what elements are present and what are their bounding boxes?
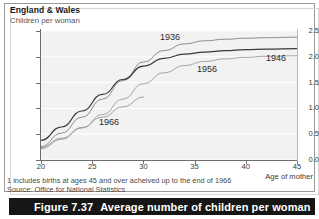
- x-tick-label: 45: [285, 162, 309, 171]
- figure-caption-bar: Figure 7.37Average number of children pe…: [4, 198, 315, 215]
- x-tick-label: 30: [131, 162, 155, 171]
- footnote-source: Source: Office for National Statistics: [7, 185, 125, 194]
- series-label-1956: 1956: [197, 64, 217, 74]
- y-tick-label: 1.5: [289, 78, 319, 87]
- series-label-1946: 1946: [266, 53, 286, 63]
- series-lines: [41, 37, 297, 148]
- y-axis-title: Children per woman: [10, 16, 80, 25]
- y-axis-line: [40, 29, 41, 161]
- x-axis-title: Age of mother: [265, 172, 313, 181]
- y-tick-mark: [36, 31, 40, 32]
- chart-region-title: England & Wales: [10, 5, 80, 15]
- x-tick-label: 40: [234, 162, 258, 171]
- caption-figure-number: Figure 7.37: [34, 201, 93, 213]
- caption-text-wrap: Figure 7.37Average number of children pe…: [9, 201, 311, 213]
- y-tick-mark: [36, 108, 40, 109]
- x-tick-label: 35: [183, 162, 207, 171]
- series-line-1946: [41, 49, 297, 141]
- series-label-1966: 1966: [99, 117, 119, 127]
- caption-title: Average number of children per woman: [100, 201, 310, 213]
- y-tick-mark: [36, 134, 40, 135]
- footnote-births: 1 includes births at ages 45 and over ac…: [7, 176, 231, 185]
- series-line-1956: [41, 56, 297, 149]
- y-tick-label: 1.0: [289, 103, 319, 112]
- y-tick-label: 2.0: [289, 52, 319, 61]
- figure-container: England & Wales Children per woman 2.52.…: [0, 0, 319, 219]
- x-tick-label: 25: [80, 162, 104, 171]
- right-axis-line: [297, 29, 298, 161]
- x-axis-line: [40, 160, 298, 161]
- y-tick-mark: [36, 160, 40, 161]
- y-tick-label: 0.5: [289, 129, 319, 138]
- y-tick-label: 2.5: [289, 26, 319, 35]
- x-tick-label: 20: [29, 162, 53, 171]
- gridlines: [41, 31, 297, 160]
- series-line-1936: [41, 37, 297, 146]
- chart-svg: [41, 31, 297, 160]
- y-tick-mark: [36, 83, 40, 84]
- series-line-1966: [41, 97, 143, 148]
- plot-area: [41, 31, 297, 160]
- y-tick-mark: [36, 57, 40, 58]
- series-label-1936: 1936: [160, 32, 180, 42]
